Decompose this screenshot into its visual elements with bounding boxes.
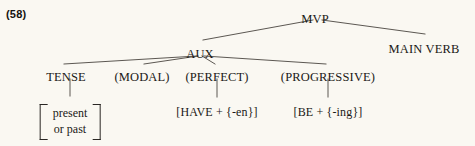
right-bracket-icon [92,104,100,140]
left-bracket-icon [40,104,48,140]
terminal-have-en: [HAVE + {-en}] [176,105,257,120]
terminal-be-ing: [BE + {-ing}] [294,105,363,120]
example-number: (58) [6,8,26,20]
tense-matrix-rows: present or past [50,104,91,140]
tense-matrix-row: or past [53,122,88,138]
node-main-verb: MAIN VERB [389,42,460,57]
node-perfect: (PERFECT) [185,70,248,85]
node-aux: AUX [186,47,214,62]
mvp-to-aux [203,20,313,40]
syntax-tree-figure: (58) MVP AUX MAIN VERB TENSE (MODAL) (PE… [0,0,475,146]
aux-to-progressive [204,56,326,64]
mvp-to-main-verb [322,20,425,34]
node-mvp: MVP [301,12,329,27]
node-tense: TENSE [46,70,86,85]
aux-to-tense [64,56,197,64]
node-progressive: (PROGRESSIVE) [281,70,375,85]
node-modal: (MODAL) [114,70,169,85]
tense-matrix-row: present [53,106,88,122]
tense-feature-matrix: present or past [40,104,101,140]
